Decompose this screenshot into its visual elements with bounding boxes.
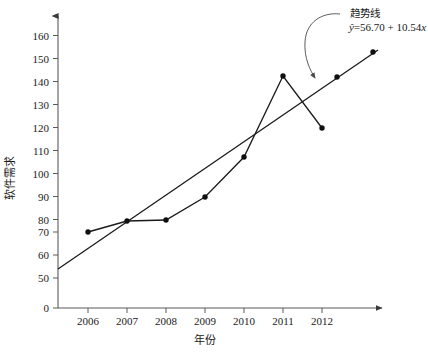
y-tick-label-120: 120 (33, 122, 50, 134)
trend-line (58, 50, 378, 269)
y-tick-label-70: 70 (38, 226, 50, 238)
demand-series-markers (85, 73, 324, 234)
y-tick-label-60: 60 (38, 249, 50, 261)
data-point-2008 (163, 217, 168, 222)
annotation-eq-body: =56.70 + 10.54 (354, 21, 422, 33)
x-tick-label-2012: 2012 (311, 315, 333, 327)
trend-point-2013 (334, 74, 339, 79)
x-tick-label-2011: 2011 (272, 315, 294, 327)
data-point-2012 (319, 125, 324, 130)
y-tick-label-140: 140 (33, 76, 50, 88)
y-tick-label-150: 150 (33, 53, 50, 65)
chart-container: 0 50 60 70 80 90 100 110 120 130 140 150 (0, 0, 428, 353)
axes-group (58, 16, 382, 308)
data-point-2006 (85, 229, 90, 234)
annotation-label: 趋势线 (350, 7, 381, 19)
x-tick-label-2007: 2007 (116, 315, 139, 327)
y-axis-title: 软件需求 (3, 156, 17, 200)
x-tick-label-2010: 2010 (233, 315, 256, 327)
software-demand-line-chart: 0 50 60 70 80 90 100 110 120 130 140 150 (0, 0, 428, 353)
x-axis-title: 年份 (194, 333, 216, 347)
x-axis-ticks: 2006 2007 2008 2009 2010 2011 2012 (77, 308, 333, 327)
annotation-eq-x: x (420, 21, 426, 33)
y-tick-label-100: 100 (33, 168, 50, 180)
data-point-2010 (241, 154, 246, 159)
x-tick-label-2006: 2006 (77, 315, 100, 327)
data-point-2009 (202, 194, 207, 199)
annotation-equation: ŷ=56.70 + 10.54x (348, 21, 426, 33)
y-axis-ticks: 0 50 60 70 80 90 100 110 120 130 140 150 (33, 30, 59, 315)
data-point-2011 (280, 73, 285, 78)
x-tick-label-2009: 2009 (194, 315, 217, 327)
callout-arrow-icon (305, 14, 340, 78)
y-tick-label-110: 110 (33, 145, 50, 157)
y-tick-label-160: 160 (33, 30, 50, 42)
y-tick-label-50: 50 (38, 272, 50, 284)
y-tick-label-80: 80 (38, 214, 50, 226)
trend-point-2014 (370, 49, 375, 54)
y-tick-label-90: 90 (38, 191, 50, 203)
y-tick-label-130: 130 (33, 99, 50, 111)
y-tick-label-0: 0 (44, 302, 50, 314)
x-tick-label-2008: 2008 (155, 315, 178, 327)
data-point-2007 (124, 218, 129, 223)
demand-series-line (88, 76, 322, 232)
